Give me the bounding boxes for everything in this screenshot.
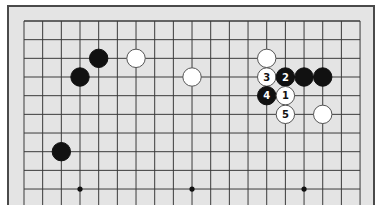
- white-stone-icon: [314, 105, 332, 123]
- star-point-icon: [77, 186, 82, 191]
- black-stone: [89, 49, 107, 67]
- black-stone-icon: [314, 68, 332, 86]
- move-number-label: 1: [282, 90, 289, 101]
- black-stone: [52, 142, 70, 160]
- white-stone: 5: [276, 105, 294, 123]
- move-number-label: 3: [263, 72, 270, 83]
- black-stone: [314, 68, 332, 86]
- black-stone: [295, 68, 313, 86]
- white-stone: [127, 49, 145, 67]
- move-number-label: 4: [263, 90, 270, 101]
- black-stone-icon: [89, 49, 107, 67]
- white-stone: [258, 49, 276, 67]
- white-stone-icon: [183, 68, 201, 86]
- white-stone-icon: [258, 49, 276, 67]
- black-stone: 2: [276, 68, 294, 86]
- white-stone-icon: [127, 49, 145, 67]
- black-stone-icon: [71, 68, 89, 86]
- go-board-diagram: 32415: [0, 0, 382, 205]
- black-stone-icon: [295, 68, 313, 86]
- star-point-icon: [189, 186, 194, 191]
- white-stone: [314, 105, 332, 123]
- move-number-label: 5: [282, 109, 289, 120]
- white-stone: 1: [276, 86, 294, 104]
- black-stone: 4: [258, 86, 276, 104]
- black-stone-icon: [52, 142, 70, 160]
- star-point-icon: [301, 186, 306, 191]
- white-stone: [183, 68, 201, 86]
- black-stone: [71, 68, 89, 86]
- white-stone: 3: [258, 68, 276, 86]
- move-number-label: 2: [282, 72, 289, 83]
